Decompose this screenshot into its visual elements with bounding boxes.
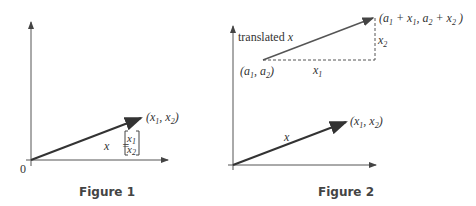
horizontal-leg-label: x1 bbox=[312, 63, 322, 79]
vertical-leg-label: x2 bbox=[377, 33, 387, 49]
vector-label: x⃗ bbox=[283, 130, 299, 144]
matrix-bracket-right bbox=[136, 131, 139, 155]
figure-2: x⃗ (x1, x2) translated x⃗ (a1, a2) (a1 +… bbox=[228, 11, 463, 199]
figure-1-caption: Figure 1 bbox=[79, 185, 135, 199]
start-point-label: (a1, a2) bbox=[240, 64, 274, 80]
figure-1: 0 (x1, x2) x⃗ = x1 x2 Figure 1 bbox=[20, 22, 179, 199]
translated-label: translated x⃗ bbox=[238, 30, 302, 44]
point-label: (x1, x2) bbox=[350, 114, 383, 130]
vector-equation-lhs: x⃗ = bbox=[103, 139, 130, 153]
origin-label: 0 bbox=[20, 162, 26, 176]
figure-2-caption: Figure 2 bbox=[318, 185, 374, 199]
point-label: (x1, x2) bbox=[146, 110, 179, 126]
end-point-label: (a1 + x1, a2 + x2 ) bbox=[379, 11, 463, 27]
diagram-canvas: 0 (x1, x2) x⃗ = x1 x2 Figure 1 x⃗ (x1, x… bbox=[0, 0, 476, 206]
